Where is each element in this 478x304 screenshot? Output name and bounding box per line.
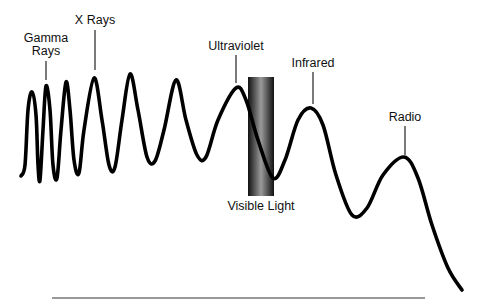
electromagnetic-wave: [21, 74, 462, 290]
label-x-rays: X Rays: [75, 14, 115, 27]
label-radio: Radio: [389, 111, 422, 124]
em-spectrum-diagram: Gamma Rays X Rays Ultraviolet Infrared R…: [0, 0, 478, 304]
label-ultraviolet: Ultraviolet: [208, 40, 264, 53]
visible-light-band: [248, 77, 274, 196]
label-visible-light: Visible Light: [227, 200, 294, 213]
label-gamma-rays: Gamma Rays: [24, 32, 68, 58]
label-infrared: Infrared: [291, 57, 334, 70]
